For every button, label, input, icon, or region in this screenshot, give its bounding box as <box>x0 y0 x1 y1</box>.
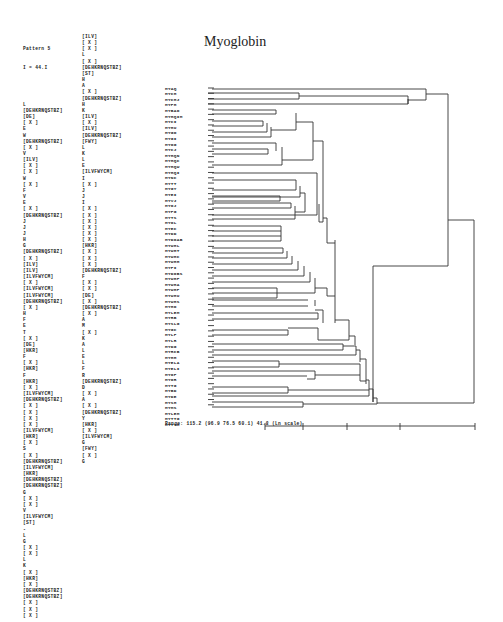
dendrogram-internal-nodes <box>208 89 474 407</box>
dendrogram-leaf-branches <box>208 88 214 405</box>
range-scale-label: Range: 115.2 (96.9 76.5 60.1) 41.8 (Ln s… <box>165 421 303 427</box>
pattern-element: [ X ] <box>23 613 63 619</box>
